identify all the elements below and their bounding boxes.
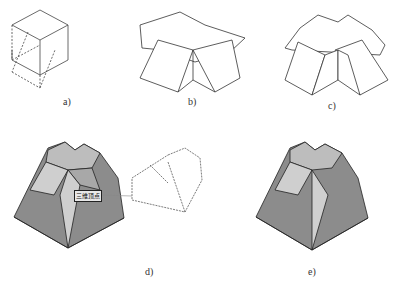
figure-a-wireframe-box: [12, 10, 68, 88]
label-a: a): [63, 96, 71, 107]
label-c: c): [328, 100, 336, 111]
figure-d-wireframe: [132, 148, 202, 212]
figure-e-solid: [256, 142, 368, 250]
label-d: d): [145, 266, 153, 277]
diagram-canvas: [0, 0, 393, 285]
figure-b-unfolded: [140, 12, 245, 92]
snap-tooltip: 三维顶点: [74, 190, 102, 202]
label-e: e): [308, 266, 316, 277]
label-b: b): [188, 96, 196, 107]
figure-c-unfolded: [285, 15, 388, 95]
